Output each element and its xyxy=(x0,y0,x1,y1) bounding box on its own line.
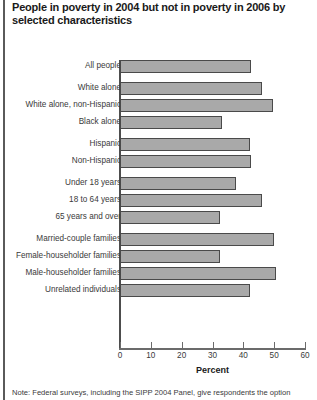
chart-page: People in poverty in 2004 but not in pov… xyxy=(0,0,317,400)
category-label: Female-householder families xyxy=(0,249,121,263)
chart-note: Note: Federal surveys, including the SIP… xyxy=(12,388,314,398)
x-tick xyxy=(182,342,183,349)
x-tick xyxy=(120,342,121,349)
category-label: Male-householder families xyxy=(0,266,121,280)
x-axis-label: Percent xyxy=(119,365,306,375)
bar-row: Male-householder families xyxy=(0,267,317,281)
category-label: Married-couple families xyxy=(0,232,121,246)
bar xyxy=(120,177,236,190)
x-tick-label: 60 xyxy=(290,351,317,360)
bar-row: 65 years and over xyxy=(0,211,317,225)
category-label: Unrelated individuals xyxy=(0,283,121,297)
bar-row: Black alone xyxy=(0,116,317,130)
bar xyxy=(120,233,274,246)
x-tick-label: 20 xyxy=(167,351,197,360)
bar-rows: All peopleWhite aloneWhite alone, non-Hi… xyxy=(0,60,317,301)
x-tick-label: 40 xyxy=(228,351,258,360)
bar xyxy=(120,60,251,73)
bar xyxy=(120,138,250,151)
category-label: White alone, non-Hispanic xyxy=(0,98,121,112)
category-label: 18 to 64 years xyxy=(0,193,121,207)
bar-row: All people xyxy=(0,60,317,74)
plot-area: All peopleWhite aloneWhite alone, non-Hi… xyxy=(0,60,317,350)
bar-row: White alone, non-Hispanic xyxy=(0,99,317,113)
bar xyxy=(120,250,220,263)
bar xyxy=(120,99,273,112)
bar-row: Married-couple families xyxy=(0,233,317,247)
x-tick-label: 50 xyxy=(259,351,289,360)
bar-row: Unrelated individuals xyxy=(0,284,317,298)
category-label: Non-Hispanic xyxy=(0,154,121,168)
x-tick-label: 10 xyxy=(136,351,166,360)
bar xyxy=(120,267,276,280)
category-label: Hispanic xyxy=(0,137,121,151)
chart-title: People in poverty in 2004 but not in pov… xyxy=(12,1,312,27)
bar xyxy=(120,194,262,207)
category-label: Under 18 years xyxy=(0,176,121,190)
bar-row: 18 to 64 years xyxy=(0,194,317,208)
bar xyxy=(120,116,222,129)
bar xyxy=(120,284,250,297)
bar xyxy=(120,211,220,224)
bar xyxy=(120,155,251,168)
category-label: White alone xyxy=(0,81,121,95)
x-tick xyxy=(305,342,306,349)
bar-row: Under 18 years xyxy=(0,177,317,191)
category-label: Black alone xyxy=(0,115,121,129)
x-tick-label: 30 xyxy=(198,351,228,360)
bar-row: Female-householder families xyxy=(0,250,317,264)
x-tick xyxy=(274,342,275,349)
x-tick-label: 0 xyxy=(105,351,135,360)
bar-row: White alone xyxy=(0,82,317,96)
category-label: All people xyxy=(0,59,121,73)
bar-row: Non-Hispanic xyxy=(0,155,317,169)
bar xyxy=(120,82,262,95)
bar-row: Hispanic xyxy=(0,138,317,152)
x-tick xyxy=(151,342,152,349)
category-label: 65 years and over xyxy=(0,210,121,224)
x-tick xyxy=(213,342,214,349)
x-tick xyxy=(243,342,244,349)
